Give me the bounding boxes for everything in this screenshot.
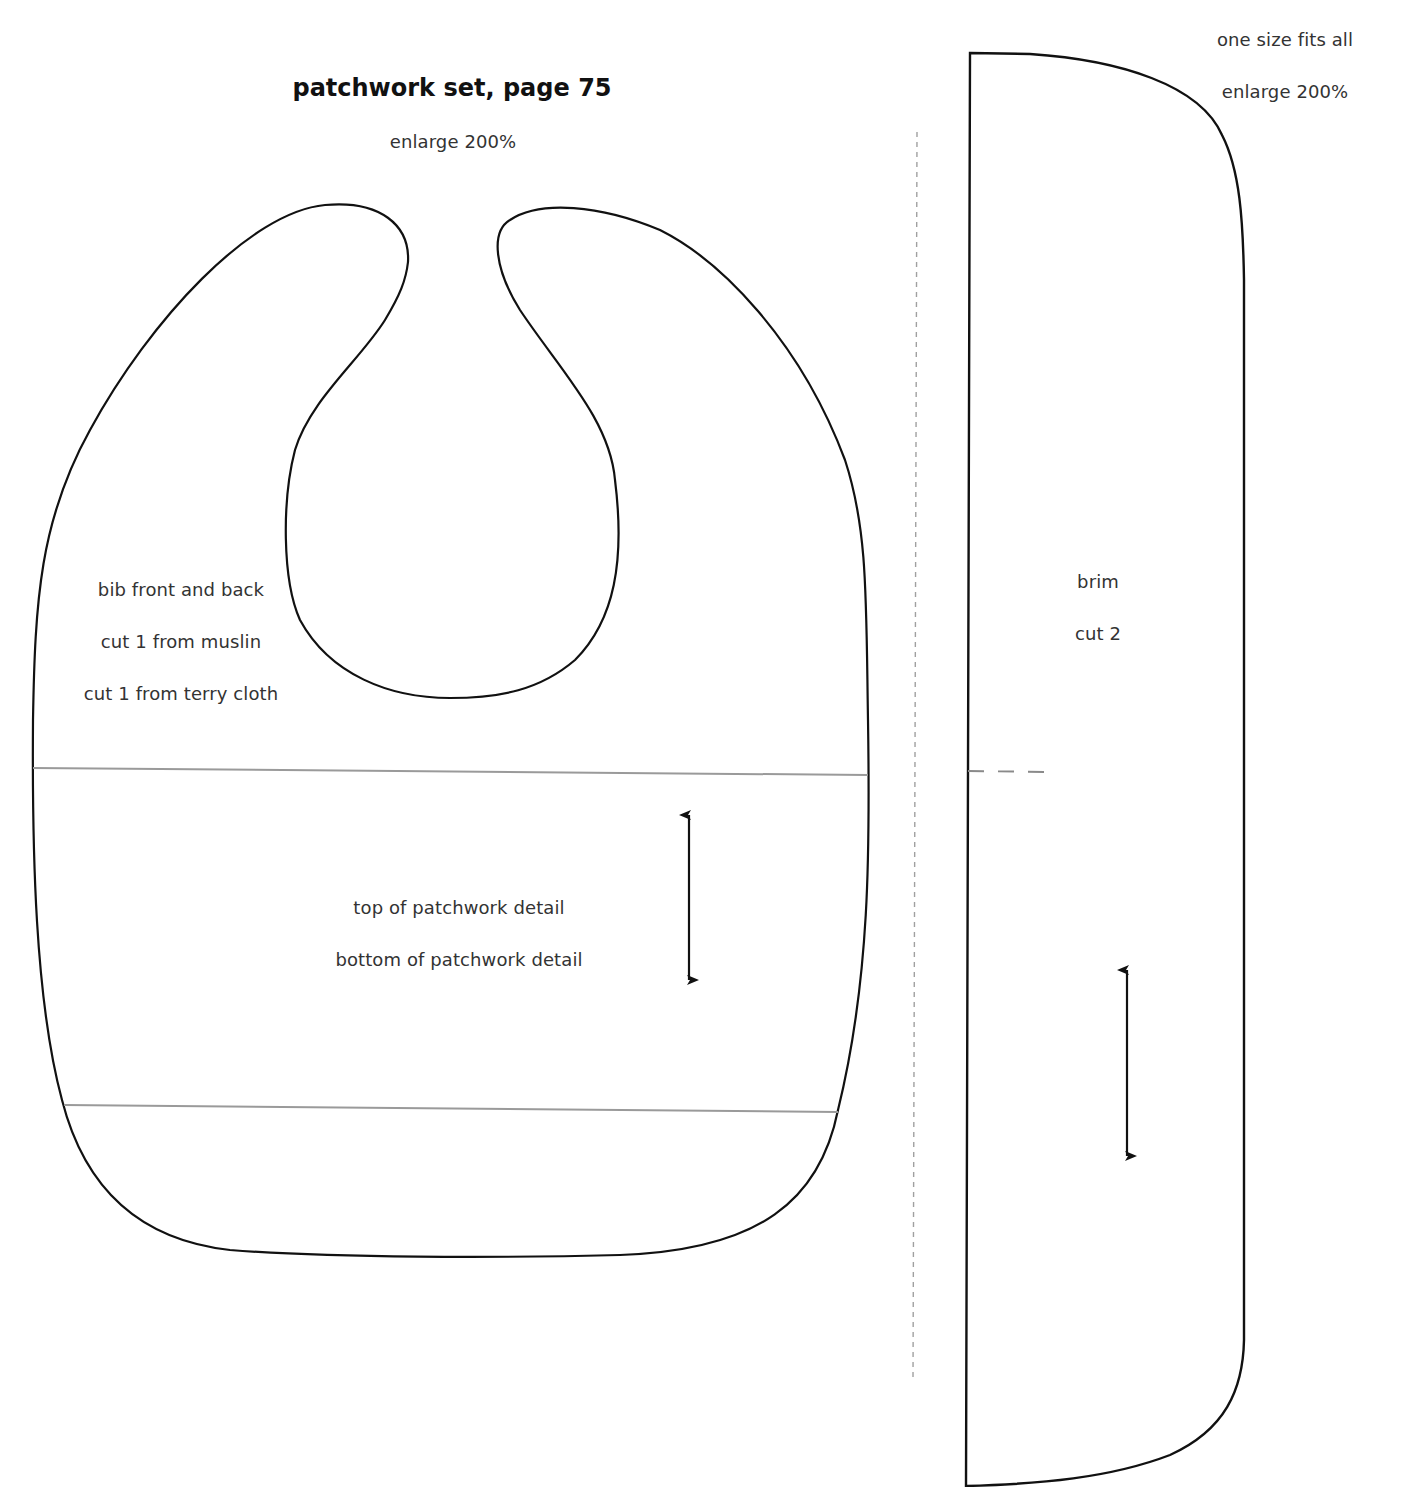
pattern-artwork [0,0,1417,1487]
size-note: one size fits all [1217,29,1353,50]
patchwork-bottom-line [64,1105,838,1112]
brim-enlarge-note: enlarge 200% [1222,81,1348,102]
brim-cut-note: cut 2 [1075,623,1121,644]
bib-cut-muslin: cut 1 from muslin [101,631,261,652]
enlarge-note: enlarge 200% [390,131,516,152]
patchwork-top-line [33,768,868,775]
bib-cut-terry: cut 1 from terry cloth [84,683,278,704]
brim-outline [966,53,1244,1487]
patchwork-top-label: top of patchwork detail [353,897,564,918]
page-title: patchwork set, page 75 [292,74,611,102]
brim-notch-dash [968,771,1048,772]
bib-piece-label: bib front and back [98,579,264,600]
patchwork-bottom-label: bottom of patchwork detail [335,949,582,970]
bib-outline [33,204,869,1256]
brim-piece-label: brim [1077,571,1119,592]
fold-separator-line [913,132,917,1378]
